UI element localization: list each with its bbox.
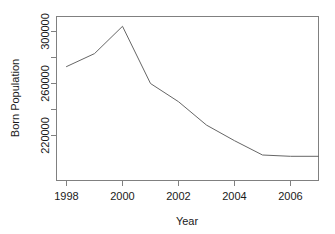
y-axis-ticks [51, 32, 57, 136]
y-tick-label-300000: 300000 [39, 13, 51, 50]
y-axis-title: Born Population [9, 59, 21, 137]
x-tick-label-2000: 2000 [110, 190, 134, 202]
x-tick-label-2004: 2004 [222, 190, 246, 202]
x-tick-label-2002: 2002 [166, 190, 190, 202]
line-chart-plot: 300000 260000 220000 Born Population 199… [0, 0, 335, 234]
x-axis-ticks [67, 181, 291, 187]
x-tick-label-2006: 2006 [278, 190, 302, 202]
x-tick-label-1998: 1998 [54, 190, 78, 202]
y-tick-label-220000: 220000 [39, 117, 51, 154]
y-tick-label-260000: 260000 [39, 65, 51, 102]
data-series-line [67, 26, 319, 156]
x-axis-title: Year [176, 215, 199, 227]
chart-container: 300000 260000 220000 Born Population 199… [0, 0, 335, 234]
